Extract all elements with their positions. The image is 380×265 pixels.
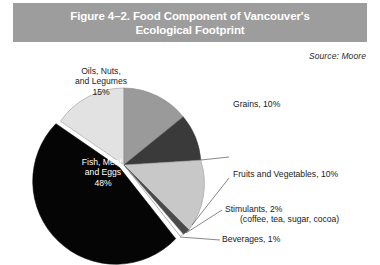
pie-label-dairy-products: Dairy Products 14% [141,66,203,97]
pie-label-oils-line-2: and Legumes [55,76,147,86]
pie-label-fish-line-2: and Eggs [48,167,158,177]
figure-container: Figure 4–2. Food Component of Vancouver'… [0,0,380,265]
pie-label-oils-line-1: Oils, Nuts, [55,66,147,76]
pie-label-oils-nuts-legumes: Oils, Nuts, and Legumes 15% [55,66,147,97]
pie-label-stimulants-main: Stimulants, 2% [225,204,339,214]
pie-label-dairy-line-1: Dairy [141,66,203,76]
pie-chart: Oils, Nuts, and Legumes 15% Dairy Produc… [0,44,380,265]
pie-label-fish-line-1: Fish, Meat, [48,157,158,167]
pie-label-fish-value: 48% [48,178,158,188]
page-title: Figure 4–2. Food Component of Vancouver'… [45,9,335,37]
pie-label-stimulants-detail: (coffee, tea, sugar, cocoa) [225,214,339,224]
pie-label-fish-meat-eggs: Fish, Meat, and Eggs 48% [48,157,158,188]
pie-label-stimulants: Stimulants, 2% (coffee, tea, sugar, coco… [225,204,339,225]
pie-label-dairy-value: 14% [141,87,203,97]
pie-label-beverages: Beverages, 1% [222,234,280,244]
pie-label-fruits-and-vegetables: Fruits and Vegetables, 10% [233,169,338,179]
leader-line-beverages [180,237,220,240]
leader-line-grains [201,157,229,160]
figure-title-banner: Figure 4–2. Food Component of Vancouver'… [13,3,367,42]
pie-label-grains: Grains, 10% [233,99,280,109]
pie-label-oils-value: 15% [55,87,147,97]
pie-label-dairy-line-2: Products [141,76,203,86]
